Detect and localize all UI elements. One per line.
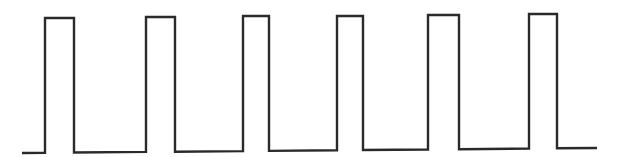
- pulse-train-waveform: [0, 0, 621, 157]
- waveform-diagram: Square / rectangular pulse waveform with…: [0, 0, 621, 157]
- waveform-trace: [22, 14, 597, 153]
